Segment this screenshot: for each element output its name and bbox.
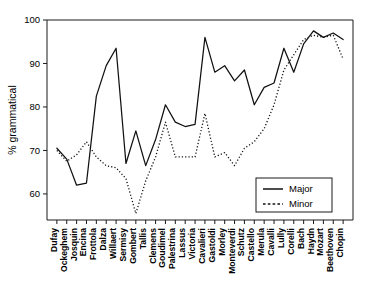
y-axis: 60708090100 [24, 14, 47, 199]
x-tick-label: Sermisy [118, 228, 128, 262]
x-tick-label: Monteverdi [227, 228, 237, 274]
x-tick-label: Gastoldi [207, 228, 217, 262]
grammaticality-line-chart: 60708090100 DufayOckeghemJosquinEncinaFr… [0, 0, 367, 304]
x-tick-label: Encina [78, 228, 88, 256]
y-tick-label: 100 [24, 14, 40, 25]
x-tick-label: Clemens [148, 228, 158, 264]
chart-legend: MajorMinor [256, 178, 332, 212]
x-tick-label: Chopin [335, 228, 345, 258]
x-tick-label: Cavalli [266, 228, 276, 256]
x-tick-label: Victoria [187, 228, 197, 260]
y-tick-label: 90 [29, 58, 40, 69]
x-tick-label: Cavalieri [197, 228, 207, 264]
x-tick-label: Frottola [88, 228, 98, 260]
x-tick-label: Mozart [315, 228, 325, 256]
x-axis: DufayOckeghemJosquinEncinaFrottolaDalzaW… [49, 220, 345, 274]
x-tick-label: Josquin [69, 228, 79, 261]
x-tick-label: Gombert [128, 228, 138, 264]
x-tick-label: Merula [256, 228, 266, 256]
x-tick-label: Ockeghem [59, 228, 69, 272]
x-tick-label: Morley [217, 228, 227, 256]
legend-label-minor: Minor [289, 198, 313, 209]
chart-container: 60708090100 DufayOckeghemJosquinEncinaFr… [0, 0, 367, 304]
x-tick-label: Palestrina [167, 228, 177, 269]
y-tick-label: 80 [29, 101, 40, 112]
x-tick-label: Goudimel [157, 228, 167, 268]
x-tick-label: Tallis [138, 228, 148, 250]
legend-label-major: Major [289, 183, 313, 194]
x-tick-label: Castello [246, 228, 256, 261]
y-tick-label: 70 [29, 145, 40, 156]
x-tick-label: Dalza [98, 228, 108, 251]
x-tick-label: Lassus [177, 228, 187, 258]
x-tick-label: Dufay [49, 228, 59, 252]
x-tick-label: Bach [296, 228, 306, 249]
x-tick-label: Willaert [108, 228, 118, 259]
x-tick-label: Corelli [286, 228, 296, 255]
x-tick-label: Schutz [236, 228, 246, 256]
x-tick-label: Beethoven [325, 228, 335, 272]
y-axis-label: % grammatical [6, 85, 18, 154]
y-tick-label: 60 [29, 188, 40, 199]
x-tick-label: Haydn [306, 228, 316, 254]
y-axis-title: % grammatical [6, 85, 18, 154]
x-tick-label: Lully [276, 228, 286, 248]
